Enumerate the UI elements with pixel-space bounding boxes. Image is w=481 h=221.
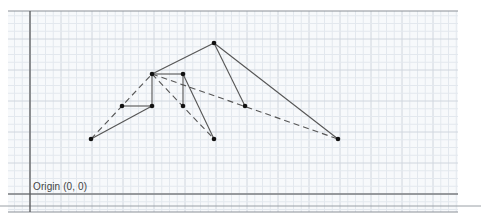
edge-G-J [214,43,338,139]
point-J [336,137,341,142]
edge-D-G [152,43,214,74]
point-H [243,104,248,109]
point-I [212,137,217,142]
point-B [120,104,125,109]
point-C [150,104,155,109]
point-F [181,104,186,109]
point-G [212,41,217,46]
point-D [150,72,155,77]
edge-E-I [183,74,214,139]
origin-label: Origin (0, 0) [33,181,87,192]
edge-G-H [214,43,245,106]
graph-diagram: Origin (0, 0) [0,0,481,221]
edge-A-C [91,106,152,139]
point-E [181,72,186,77]
point-A [89,137,94,142]
